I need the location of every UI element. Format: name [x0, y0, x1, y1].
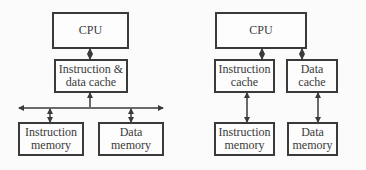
left-imem-label: Instruction memory	[25, 126, 77, 152]
left-cpu-box: CPU	[52, 12, 129, 49]
right-dcache-label: Data cache	[298, 63, 325, 89]
right-imem-label: Instruction memory	[219, 126, 271, 152]
left-dmem-label: Data memory	[111, 126, 151, 152]
right-data-memory-box: Data memory	[287, 122, 338, 156]
right-dmem-label: Data memory	[293, 126, 333, 152]
diagram-canvas: CPU Instruction & data cache Instruction…	[0, 0, 366, 170]
right-cpu-label: CPU	[249, 24, 272, 37]
right-instruction-cache-box: Instruction cache	[214, 59, 275, 93]
right-cpu-box: CPU	[215, 12, 307, 49]
left-data-memory-box: Data memory	[98, 122, 164, 156]
left-unified-cache-box: Instruction & data cache	[54, 59, 128, 93]
right-data-cache-box: Data cache	[286, 59, 338, 93]
left-instruction-memory-box: Instruction memory	[18, 122, 84, 156]
left-cache-label: Instruction & data cache	[59, 63, 123, 89]
right-instruction-memory-box: Instruction memory	[214, 122, 275, 156]
right-icache-label: Instruction cache	[219, 63, 271, 89]
left-cpu-label: CPU	[79, 24, 102, 37]
